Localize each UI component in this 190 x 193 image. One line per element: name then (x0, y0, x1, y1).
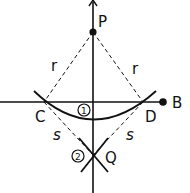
label-c: C (35, 108, 45, 126)
construction-diagram: P B C D Q r r s s 1 2 (0, 0, 190, 193)
label-p: P (98, 13, 107, 31)
label-q: Q (105, 149, 117, 167)
label-b: B (172, 94, 182, 112)
label-s-left: s (53, 126, 61, 144)
label-s-right: s (126, 126, 134, 144)
point-b (159, 98, 167, 106)
label-r-left: r (51, 57, 58, 75)
step-1-label: 1 (81, 106, 87, 116)
label-r-right: r (132, 60, 139, 78)
label-d: D (145, 108, 157, 126)
step-2-label: 2 (75, 152, 81, 162)
point-p (89, 28, 96, 35)
